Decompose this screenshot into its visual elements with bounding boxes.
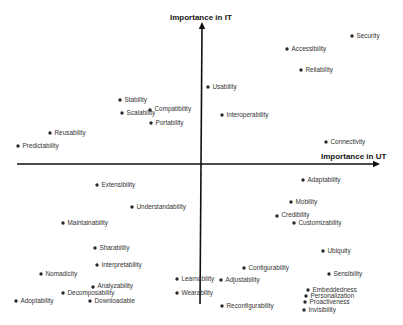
point-compatibility: Compatibility [148, 105, 192, 113]
point-adjustability: Adjustability [219, 276, 260, 284]
point-marker-icon [292, 221, 295, 224]
point-marker-icon [149, 121, 152, 124]
point-wearability: Wearability [175, 289, 213, 297]
point-proactiveness: Proactiveness [303, 298, 349, 305]
point-label: Reusability [55, 129, 87, 137]
point-marker-icon [206, 85, 209, 88]
point-label: Portability [156, 119, 185, 127]
point-marker-icon [303, 300, 306, 303]
point-nomadicity: Nomadicity [39, 270, 78, 278]
point-marker-icon [321, 249, 324, 252]
point-marker-icon [16, 144, 19, 147]
point-marker-icon [304, 294, 307, 297]
point-customizability: Customizability [292, 219, 342, 227]
point-marker-icon [220, 304, 223, 307]
point-label: Interoperability [227, 111, 270, 119]
point-learnability: Learnability [175, 275, 215, 283]
point-label: Downloadable [95, 297, 136, 304]
point-predictability: Predictability [16, 142, 59, 150]
point-label: Adaptability [308, 176, 342, 184]
point-portability: Portability [149, 119, 184, 127]
point-sensibility: Sensibility [327, 270, 363, 278]
point-label: Adoptability [21, 297, 55, 305]
point-marker-icon [91, 285, 94, 288]
point-label: Customizability [299, 219, 343, 227]
point-label: Understandability [137, 203, 187, 211]
point-label: Compatibility [155, 105, 192, 113]
point-label: Sharability [100, 244, 131, 252]
point-adaptability: Adaptability [301, 176, 341, 184]
point-label: Invisibility [309, 306, 337, 314]
point-label: Learnability [182, 275, 215, 283]
point-marker-icon [95, 263, 98, 266]
point-label: Reconfigurability [227, 302, 275, 310]
x-axis-title: Importance in UT [321, 152, 386, 161]
y-axis-arrow-icon [199, 22, 205, 29]
point-mobility: Mobility [289, 198, 318, 206]
point-usability: Usability [206, 83, 237, 91]
point-downloadable: Downloadable [88, 297, 135, 304]
point-ubiquity: Ubiquity [321, 247, 351, 255]
point-marker-icon [120, 111, 123, 114]
point-label: Security [357, 32, 381, 40]
point-label: Adjustability [226, 276, 261, 284]
point-reliability: Reliability [299, 66, 333, 74]
y-axis-title: Importance in IT [170, 13, 232, 22]
point-interoperability: Interoperability [220, 111, 269, 119]
importance-quadrant-diagram: Importance in IT Importance in UT Securi… [0, 0, 403, 325]
point-label: Extensibility [102, 181, 137, 189]
point-label: Stability [125, 96, 148, 104]
axes: Importance in IT Importance in UT [17, 13, 386, 304]
point-label: Mobility [296, 198, 318, 206]
data-points: SecurityAccessibilityReliabilityUsabilit… [14, 32, 380, 314]
point-accessibility: Accessibility [285, 45, 327, 53]
point-marker-icon [175, 291, 178, 294]
point-marker-icon [48, 131, 51, 134]
point-marker-icon [242, 266, 245, 269]
point-label: Wearability [182, 289, 214, 297]
point-label: Accessibility [292, 45, 328, 53]
point-marker-icon [61, 221, 64, 224]
point-label: Predictability [23, 142, 60, 150]
point-reusability: Reusability [48, 129, 86, 137]
point-marker-icon [289, 200, 292, 203]
point-marker-icon [275, 214, 278, 217]
point-invisibility: Invisibility [302, 306, 336, 314]
point-reconfigurability: Reconfigurability [220, 302, 274, 310]
point-security: Security [350, 32, 380, 40]
point-label: Maintainability [68, 219, 109, 227]
point-marker-icon [93, 246, 96, 249]
point-maintainability: Maintainability [61, 219, 108, 227]
point-marker-icon [14, 299, 17, 302]
point-marker-icon [130, 205, 133, 208]
point-label: Usability [213, 83, 238, 91]
point-marker-icon [219, 278, 222, 281]
point-label: Configurability [249, 264, 290, 272]
point-marker-icon [61, 291, 64, 294]
point-marker-icon [39, 272, 42, 275]
point-label: Scalability [127, 109, 157, 117]
point-understandability: Understandability [130, 203, 186, 211]
point-marker-icon [350, 34, 353, 37]
x-axis-arrow-icon [373, 161, 380, 167]
point-marker-icon [175, 277, 178, 280]
point-decomposability: Decomposability [61, 289, 115, 297]
point-label: Connectivity [331, 138, 367, 146]
point-extensibility: Extensibility [95, 181, 136, 189]
point-label: Reliability [306, 66, 334, 74]
point-marker-icon [324, 140, 327, 143]
point-label: Sensibility [334, 270, 364, 278]
point-stability: Stability [118, 96, 147, 104]
point-adoptability: Adoptability [14, 297, 54, 305]
point-marker-icon [88, 299, 91, 302]
point-marker-icon [299, 68, 302, 71]
point-marker-icon [327, 272, 330, 275]
point-marker-icon [301, 178, 304, 181]
point-interpretability: Interpretability [95, 261, 142, 269]
point-credibility: Credibility [275, 211, 310, 219]
point-marker-icon [302, 308, 305, 311]
point-connectivity: Connectivity [324, 138, 366, 146]
point-marker-icon [118, 98, 121, 101]
point-marker-icon [148, 108, 151, 111]
point-sharability: Sharability [93, 244, 130, 252]
